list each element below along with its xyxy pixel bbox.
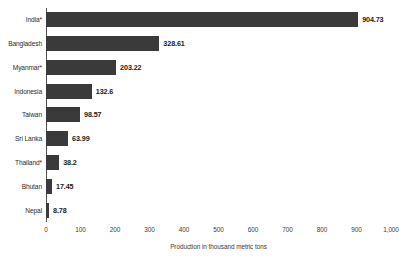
- category-label-text: Nepal: [25, 207, 42, 214]
- category-label-text: Sri Lanka: [15, 135, 42, 142]
- category-label-text: India*: [26, 16, 42, 23]
- bar-row: 63.99: [46, 127, 391, 151]
- category-axis: India*BangladeshMyanmar*IndonesiaTaiwanS…: [0, 8, 42, 222]
- bar: [46, 84, 92, 99]
- bar-value-label: 98.57: [84, 110, 102, 119]
- bar-value-label: 38.2: [63, 158, 77, 167]
- category-label: India*: [0, 8, 42, 32]
- category-label: Taiwan: [0, 103, 42, 127]
- bar-value-label: 132.6: [96, 87, 114, 96]
- bar-row: 17.45: [46, 174, 391, 198]
- x-tick-label: 500: [213, 226, 223, 233]
- category-label-text: Bhutan: [22, 183, 42, 190]
- category-label: Myanmar*: [0, 56, 42, 80]
- x-axis-title: Production in thousand metric tons: [46, 243, 391, 250]
- category-label: Indonesia: [0, 79, 42, 103]
- bar: [46, 179, 52, 194]
- x-tick-label: 700: [282, 226, 292, 233]
- bar-chart: India*BangladeshMyanmar*IndonesiaTaiwanS…: [0, 0, 404, 264]
- x-tick-label: 1,000: [383, 226, 399, 233]
- x-tick-label: 900: [351, 226, 361, 233]
- bar: [46, 107, 80, 122]
- bar-value-label: 63.99: [72, 134, 90, 143]
- category-label-text: Bangladesh: [8, 40, 42, 47]
- bar-row: 328.61: [46, 32, 391, 56]
- bar-row: 132.6: [46, 79, 391, 103]
- category-label-text: Taiwan: [22, 111, 42, 118]
- bar: [46, 203, 49, 218]
- category-label-text: Indonesia: [14, 88, 42, 95]
- x-axis: 01002003004005006007008009001,000: [46, 222, 391, 223]
- x-tick-label: 100: [75, 226, 85, 233]
- category-label: Bhutan: [0, 174, 42, 198]
- x-tick-label: 200: [110, 226, 120, 233]
- plot-area: 904.73328.61203.22132.698.5763.9938.217.…: [46, 8, 391, 222]
- bar: [46, 155, 59, 170]
- category-label: Thailand*: [0, 151, 42, 175]
- bar-value-label: 904.73: [362, 15, 383, 24]
- bar-row: 904.73: [46, 8, 391, 32]
- bar-row: 38.2: [46, 151, 391, 175]
- category-label: Nepal: [0, 198, 42, 222]
- bar: [46, 131, 68, 146]
- category-label-text: Thailand*: [15, 159, 42, 166]
- category-label-text: Myanmar*: [13, 64, 42, 71]
- category-label: Bangladesh: [0, 32, 42, 56]
- bar-row: 8.78: [46, 198, 391, 222]
- bar: [46, 60, 116, 75]
- bar-value-label: 328.61: [163, 39, 184, 48]
- bar-value-label: 8.78: [53, 206, 67, 215]
- bar-value-label: 203.22: [120, 63, 141, 72]
- category-label: Sri Lanka: [0, 127, 42, 151]
- x-tick-label: 400: [179, 226, 189, 233]
- x-tick-label: 800: [317, 226, 327, 233]
- bar-value-label: 17.45: [56, 182, 74, 191]
- bar-row: 98.57: [46, 103, 391, 127]
- bar: [46, 36, 159, 51]
- bar: [46, 12, 358, 27]
- x-tick-label: 600: [248, 226, 258, 233]
- x-tick-label: 300: [144, 226, 154, 233]
- bar-row: 203.22: [46, 56, 391, 80]
- x-tick-label: 0: [44, 226, 47, 233]
